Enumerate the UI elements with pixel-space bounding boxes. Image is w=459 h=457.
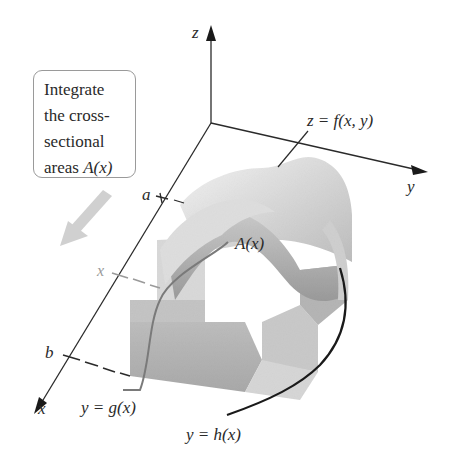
- lower-curve-label: y = g(x): [81, 399, 136, 416]
- cross-section-label: A(x): [235, 235, 264, 252]
- tick-b: [63, 355, 130, 376]
- callout-box: Integrate the cross- sectional areas A(x…: [33, 70, 136, 178]
- tick-a-label: a: [142, 186, 151, 203]
- tick-b-label: b: [45, 344, 54, 361]
- tick-x: [112, 273, 160, 288]
- z-arrowhead: [206, 25, 216, 41]
- y-arrowhead: [411, 165, 428, 175]
- y-axis-label: y: [407, 178, 415, 195]
- callout-math: A(x): [83, 158, 112, 177]
- surface-label: z = f(x, y): [307, 112, 373, 129]
- callout-line-4-text: areas: [44, 158, 83, 177]
- x-axis-label: x: [38, 400, 46, 417]
- callout-line-2: the cross-: [44, 103, 135, 129]
- callout-line-4: areas A(x): [44, 155, 135, 181]
- integration-direction-arrow: [60, 190, 112, 246]
- tick-x-label: x: [97, 263, 104, 279]
- tick-a: [156, 193, 184, 203]
- diagram-canvas: Integrate the cross- sectional areas A(x…: [0, 0, 459, 457]
- diagram-graphics: [0, 0, 459, 457]
- upper-curve-label: y = h(x): [186, 426, 241, 443]
- solid-region: [130, 157, 352, 400]
- callout-line-1: Integrate: [44, 77, 135, 103]
- callout-line-3: sectional: [44, 129, 135, 155]
- z-axis-label: z: [192, 24, 199, 41]
